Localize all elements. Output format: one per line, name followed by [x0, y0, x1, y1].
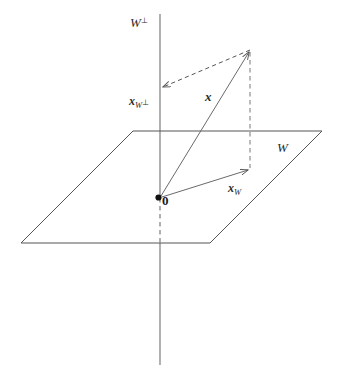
label-origin: 0	[162, 193, 169, 208]
label-subspace-w: W	[277, 140, 289, 155]
label-projection-w-base: x	[227, 181, 234, 195]
label-projection-w-perp-base: x	[128, 94, 135, 108]
label-projection-w-perp-superscript: ⊥	[142, 98, 149, 107]
vector-x-arrow	[161, 52, 249, 196]
label-projection-w: xW	[227, 181, 242, 197]
label-subspace-perp-superscript: ⊥	[141, 16, 148, 25]
label-projection-w-subscript: W	[234, 187, 242, 197]
label-vector-x: x	[204, 89, 212, 104]
label-subspace-perp: W⊥	[130, 15, 148, 30]
diagram-canvas: W⊥ W x xW xW⊥ 0	[0, 0, 337, 372]
vector-projection-diagram: W⊥ W x xW xW⊥ 0	[0, 0, 337, 372]
vector-x-w-perp-arrow	[163, 50, 250, 87]
label-projection-w-perp: xW⊥	[128, 94, 149, 110]
origin-point	[155, 194, 161, 200]
